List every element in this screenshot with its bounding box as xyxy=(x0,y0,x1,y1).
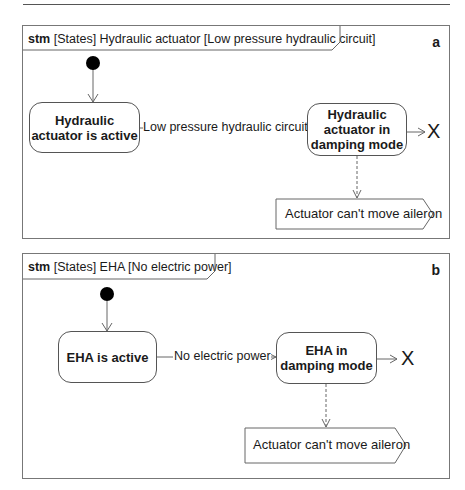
signal-actuator-cant-move-b: Actuator can't move aileron xyxy=(253,437,410,452)
signal-actuator-cant-move-a: Actuator can't move aileron xyxy=(285,206,442,221)
transition-low-pressure-label: Low pressure hydraulic circuit xyxy=(143,120,308,134)
state-eha-damping-mode[interactable]: EHA in damping mode xyxy=(276,332,377,384)
diagram-connectors xyxy=(0,0,465,490)
transition-no-electric-power-label: No electric power xyxy=(174,349,271,363)
initial-node-b xyxy=(100,287,114,301)
terminate-icon-b: X xyxy=(401,347,414,370)
initial-node-a xyxy=(86,56,100,70)
terminate-icon-a: X xyxy=(427,120,440,143)
state-hydraulic-damping-mode[interactable]: Hydraulic actuator in damping mode xyxy=(307,103,407,156)
state-eha-active[interactable]: EHA is active xyxy=(58,331,157,383)
state-hydraulic-actuator-active[interactable]: Hydraulic actuator is active xyxy=(29,102,140,153)
